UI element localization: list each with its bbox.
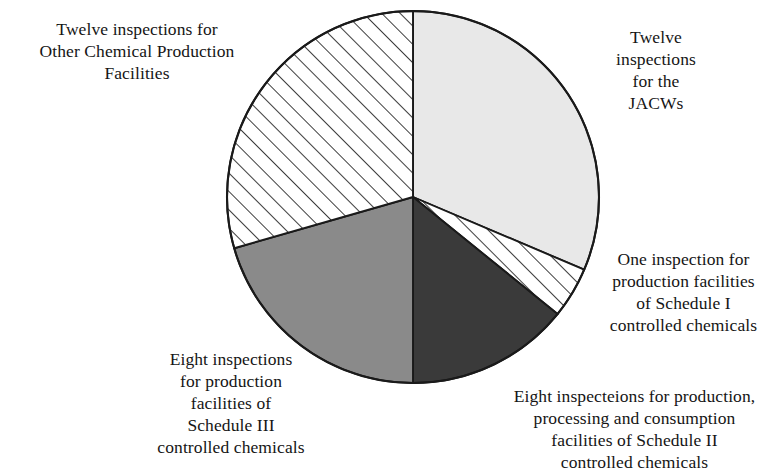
- slice-label-schedule-3: Eight inspections for production facilit…: [108, 348, 354, 458]
- slice-label-schedule-1: One inspection for production facilities…: [585, 248, 782, 336]
- pie-slice-group: [227, 11, 599, 383]
- pie-chart-figure: Twelve inspections for Other Chemical Pr…: [0, 0, 782, 471]
- slice-label-jacws: Twelve inspections for the JACWs: [586, 26, 726, 114]
- slice-label-other-chemical-production-facilities: Twelve inspections for Other Chemical Pr…: [6, 18, 268, 84]
- slice-label-schedule-2: Eight inspecteions for production, proce…: [487, 385, 782, 471]
